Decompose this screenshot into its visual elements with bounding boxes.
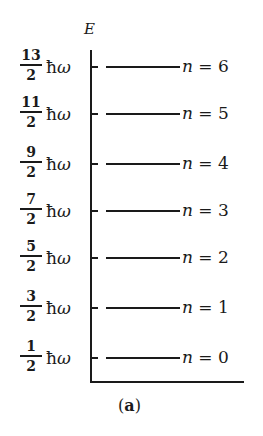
fraction-numerator: 9 xyxy=(20,145,42,160)
level-line xyxy=(106,307,180,309)
energy-fraction: 13 2 xyxy=(20,48,42,82)
fraction-numerator: 5 xyxy=(20,239,42,254)
quantum-number-label: n = 4 xyxy=(182,153,229,173)
quantum-number-label: n = 1 xyxy=(182,297,229,317)
fraction-bar xyxy=(20,355,42,357)
fraction-numerator: 13 xyxy=(20,48,42,63)
energy-fraction: 9 2 xyxy=(20,145,42,179)
fraction-bar xyxy=(20,111,42,113)
fraction-numerator: 3 xyxy=(20,289,42,304)
axis-tick xyxy=(92,66,98,68)
level-line xyxy=(106,257,180,259)
hbar-symbol: ħ xyxy=(46,248,57,268)
level-line xyxy=(106,113,180,115)
fraction-denominator: 2 xyxy=(20,259,42,273)
energy-level-n0: 1 2 ħω n = 0 xyxy=(0,339,263,379)
fraction-numerator: 1 xyxy=(20,339,42,354)
quantum-number-label: n = 0 xyxy=(182,347,229,367)
hbar-omega-label: ħω xyxy=(46,104,71,124)
axis-tick xyxy=(92,210,98,212)
fraction-denominator: 2 xyxy=(20,309,42,323)
hbar-symbol: ħ xyxy=(46,57,57,77)
energy-fraction: 5 2 xyxy=(20,239,42,273)
quantum-number-label: n = 5 xyxy=(182,103,229,123)
fraction-bar xyxy=(20,305,42,307)
fraction-bar xyxy=(20,208,42,210)
axis-tick xyxy=(92,163,98,165)
omega-symbol: ω xyxy=(57,298,71,318)
axis-tick xyxy=(92,257,98,259)
omega-symbol: ω xyxy=(57,348,71,368)
quantum-number-label: n = 3 xyxy=(182,200,229,220)
hbar-omega-label: ħω xyxy=(46,348,71,368)
energy-level-n5: 11 2 ħω n = 5 xyxy=(0,95,263,135)
hbar-omega-label: ħω xyxy=(46,248,71,268)
energy-level-n6: 13 2 ħω n = 6 xyxy=(0,48,263,88)
fraction-denominator: 2 xyxy=(20,359,42,373)
quantum-number-label: n = 2 xyxy=(182,247,229,267)
level-line xyxy=(106,210,180,212)
omega-symbol: ω xyxy=(57,104,71,124)
fraction-denominator: 2 xyxy=(20,212,42,226)
hbar-omega-label: ħω xyxy=(46,298,71,318)
baseline-axis-horizontal xyxy=(90,381,244,383)
hbar-omega-label: ħω xyxy=(46,201,71,221)
energy-fraction: 11 2 xyxy=(20,95,42,129)
hbar-symbol: ħ xyxy=(46,104,57,124)
hbar-omega-label: ħω xyxy=(46,154,71,174)
fraction-denominator: 2 xyxy=(20,68,42,82)
fraction-numerator: 11 xyxy=(20,95,42,110)
figure-caption: (a) xyxy=(118,396,141,415)
omega-symbol: ω xyxy=(57,201,71,221)
energy-fraction: 7 2 xyxy=(20,192,42,226)
hbar-symbol: ħ xyxy=(46,154,57,174)
hbar-symbol: ħ xyxy=(46,298,57,318)
omega-symbol: ω xyxy=(57,57,71,77)
energy-level-n3: 7 2 ħω n = 3 xyxy=(0,192,263,232)
fraction-denominator: 2 xyxy=(20,115,42,129)
hbar-omega-label: ħω xyxy=(46,57,71,77)
hbar-symbol: ħ xyxy=(46,348,57,368)
fraction-bar xyxy=(20,161,42,163)
energy-fraction: 1 2 xyxy=(20,339,42,373)
omega-symbol: ω xyxy=(57,248,71,268)
fraction-numerator: 7 xyxy=(20,192,42,207)
axis-tick xyxy=(92,357,98,359)
level-line xyxy=(106,357,180,359)
energy-fraction: 3 2 xyxy=(20,289,42,323)
fraction-bar xyxy=(20,255,42,257)
fraction-denominator: 2 xyxy=(20,165,42,179)
energy-level-n2: 5 2 ħω n = 2 xyxy=(0,239,263,279)
level-line xyxy=(106,66,180,68)
energy-level-n1: 3 2 ħω n = 1 xyxy=(0,289,263,329)
energy-level-n4: 9 2 ħω n = 4 xyxy=(0,145,263,185)
axis-tick xyxy=(92,113,98,115)
hbar-symbol: ħ xyxy=(46,201,57,221)
quantum-number-label: n = 6 xyxy=(182,56,229,76)
level-line xyxy=(106,163,180,165)
omega-symbol: ω xyxy=(57,154,71,174)
fraction-bar xyxy=(20,64,42,66)
axis-tick xyxy=(92,307,98,309)
energy-axis-label: E xyxy=(84,20,95,38)
